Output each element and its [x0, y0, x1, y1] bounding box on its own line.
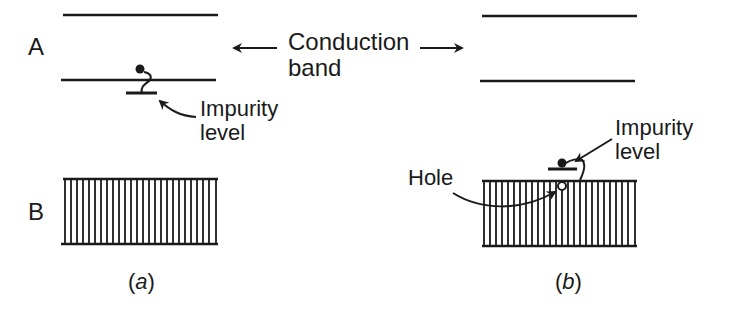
panel-b-impurity-label-line2: level: [615, 140, 660, 164]
panel-b-impurity-label-line1: Impurity: [615, 116, 693, 140]
caption-a: (a): [128, 270, 155, 294]
panel-b-hole-arrow: [453, 192, 555, 206]
caption-b: (b): [555, 270, 582, 294]
panel-b-impurity-level: [548, 159, 584, 191]
electron-icon: [558, 159, 567, 168]
panel-b-valence-band: [482, 181, 637, 246]
hole-icon: [558, 182, 566, 190]
row-label-b: B: [28, 200, 44, 224]
panel-b-impurity-arrow: [576, 139, 612, 161]
conduction-band-label-line1: Conduction: [288, 30, 409, 54]
electron-icon: [136, 65, 145, 74]
panel-a-impurity-arrow: [160, 101, 196, 117]
panel-a-valence-band: [61, 179, 218, 244]
row-label-a: A: [28, 35, 44, 59]
hole-label: Hole: [408, 166, 453, 190]
conduction-band-label-line2: band: [288, 56, 341, 80]
panel-a-impurity-label-line2: level: [200, 121, 245, 145]
panel-a-impurity-label-line1: Impurity: [200, 97, 278, 121]
panel-b-conduction-band: [480, 16, 637, 81]
